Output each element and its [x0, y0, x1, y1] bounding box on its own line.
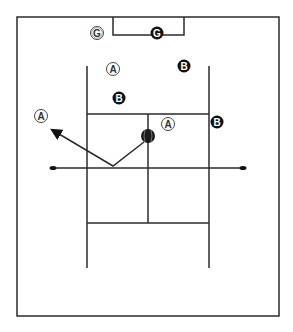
player-marker-white-g: G — [91, 27, 104, 40]
player-marker-black-b: B — [211, 116, 224, 129]
player-marker-white-a: A — [162, 118, 175, 131]
tennis-ball-icon — [141, 129, 155, 143]
player-marker-white-a: A — [35, 110, 48, 123]
goal-box — [113, 17, 184, 35]
player-label: A — [109, 64, 116, 75]
ball-path-arrow — [54, 131, 144, 166]
player-marker-black-b: B — [178, 60, 191, 73]
player-marker-black-g: G — [151, 27, 164, 40]
player-label: A — [164, 119, 171, 130]
player-marker-black-b: B — [113, 92, 126, 105]
player-label: B — [180, 61, 187, 72]
net-post-right — [240, 166, 247, 170]
player-marker-white-a: A — [107, 63, 120, 76]
player-label: G — [153, 28, 161, 39]
net-post-left — [50, 166, 57, 170]
player-label: B — [115, 93, 122, 104]
player-label: A — [37, 111, 44, 122]
player-label: G — [93, 28, 101, 39]
court-diagram: GGABBAAB — [0, 0, 293, 332]
player-label: B — [213, 117, 220, 128]
